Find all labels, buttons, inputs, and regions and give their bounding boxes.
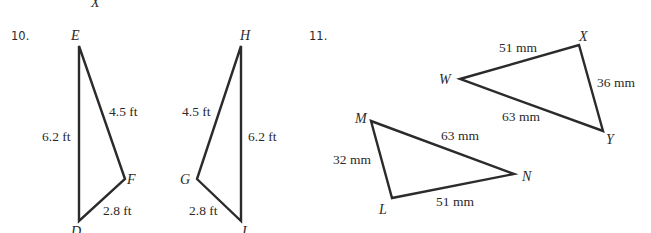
side-length-lm: 32 mm	[333, 152, 371, 167]
vertex-label-g: G	[180, 172, 190, 187]
side-length-mn: 63 mm	[441, 128, 479, 143]
vertex-label-l: L	[378, 202, 387, 217]
vertex-label-h: H	[239, 28, 251, 43]
vertex-label-f: F	[126, 172, 136, 187]
triangle-ghi: H G I 6.2 ft 4.5 ft 2.8 ft	[180, 28, 277, 233]
figure-canvas: X 10. E F D 6.2 ft 4.5 ft 2.8 ft H G I 6…	[0, 0, 651, 233]
vertex-label-n: N	[521, 169, 532, 184]
vertex-label-w: W	[439, 72, 452, 87]
side-length-de: 6.2 ft	[42, 129, 71, 144]
triangle-def-shape	[79, 46, 125, 221]
side-length-gh: 4.5 ft	[182, 104, 211, 119]
problem-11: 11. X W Y 51 mm 36 mm 63 mm M N L 63 mm …	[309, 29, 635, 217]
triangle-def: E F D 6.2 ft 4.5 ft 2.8 ft	[42, 28, 138, 233]
side-length-hi: 6.2 ft	[248, 129, 277, 144]
vertex-label-d: D	[70, 224, 81, 233]
side-length-ef: 4.5 ft	[109, 104, 138, 119]
vertex-label-e: E	[70, 28, 80, 43]
problem-number: 11.	[309, 29, 327, 43]
triangle-ghi-shape	[197, 46, 241, 221]
side-length-wy: 63 mm	[502, 109, 540, 124]
problem-number: 10.	[11, 29, 29, 43]
side-length-wx: 51 mm	[499, 40, 537, 55]
vertex-label-x: X	[578, 29, 588, 44]
side-length-xy: 36 mm	[597, 75, 635, 90]
problem-10: 10. E F D 6.2 ft 4.5 ft 2.8 ft H G I 6.2…	[11, 28, 277, 233]
vertex-label-i: I	[241, 224, 248, 233]
side-length-df: 2.8 ft	[103, 203, 132, 218]
top-fragment-label: X	[90, 0, 100, 10]
vertex-label-m: M	[354, 111, 368, 126]
side-length-gi: 2.8 ft	[189, 203, 218, 218]
vertex-label-y: Y	[606, 132, 616, 147]
triangle-lmn: M N L 63 mm 32 mm 51 mm	[333, 111, 532, 217]
side-length-ln: 51 mm	[436, 194, 474, 209]
